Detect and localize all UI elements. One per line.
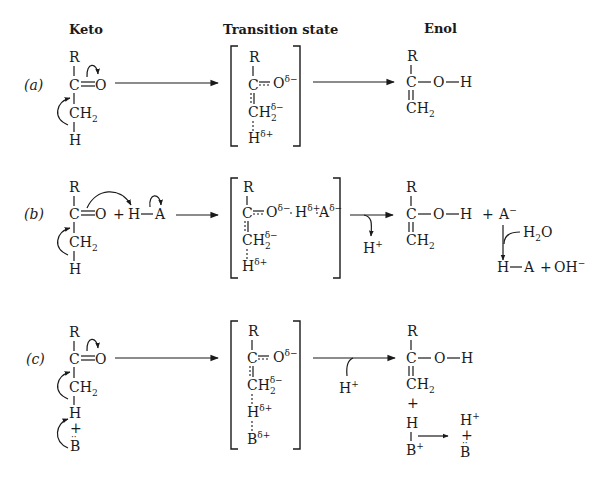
curved-arrow-icon	[87, 65, 98, 77]
atom-r: R	[407, 323, 418, 339]
atom-h-partial: Hδ+	[247, 403, 272, 420]
water-regeneration: H2O H A + OH−	[497, 224, 585, 275]
row-b: (b) R C O + H A CH2 H R C	[24, 178, 585, 278]
enol-structure-b: R C O H CH2 + A−	[406, 179, 517, 251]
group-ch2-partial: CH2δ−	[247, 375, 283, 396]
enol-structure-a: R C O H CH2	[406, 48, 472, 119]
curved-arrow-icon	[87, 339, 98, 351]
bracket-right	[293, 46, 300, 146]
keto-enol-diagram: Keto Transition state Enol (a) R C O CH2…	[0, 0, 609, 481]
atom-o: O	[95, 206, 106, 222]
atom-r: R	[243, 179, 254, 195]
atom-o-partial: Oδ−	[266, 203, 290, 220]
atom-o: O	[433, 206, 444, 222]
atom-c: C	[247, 350, 258, 366]
group-ch2: CH2	[406, 232, 435, 251]
atom-c: C	[248, 77, 259, 93]
row-label-b: (b)	[24, 206, 44, 222]
free-base: B	[460, 444, 470, 460]
curved-arrow-icon	[347, 358, 353, 376]
plus-sign: +	[540, 259, 552, 275]
protonated-base: B+	[406, 441, 424, 458]
row-a: (a) R C O CH2 H R C Oδ−	[24, 46, 472, 148]
plus-sign: +	[113, 206, 125, 222]
bracket-left	[231, 178, 238, 278]
hydroxide: OH−	[554, 258, 585, 275]
group-ch2: CH2	[406, 376, 435, 395]
atom-c: C	[406, 350, 417, 366]
atom-h: H	[69, 261, 81, 277]
base-partial: Bδ+	[247, 430, 270, 447]
atom-o: O	[95, 77, 106, 93]
atom-h-partial: Hδ+	[242, 257, 267, 274]
group-ch2-partial: CH2δ−	[248, 102, 284, 123]
atom-c: C	[242, 205, 253, 221]
transition-state-b: R C Oδ− Hδ+ Aδ− CH2δ− Hδ+	[242, 179, 342, 274]
row-label-c: (c)	[26, 351, 45, 367]
group-ch2: CH2	[406, 100, 435, 119]
header-keto: Keto	[69, 22, 103, 37]
added-proton: H+	[339, 379, 359, 396]
group-ch2: CH2	[69, 379, 98, 398]
atom-o-partial: Oδ−	[273, 74, 297, 91]
atom-a: A	[154, 206, 166, 222]
bracket-right	[293, 321, 300, 449]
curved-arrow-icon	[57, 419, 68, 448]
atom-r: R	[248, 323, 259, 339]
atom-h: H	[461, 350, 473, 366]
plus-sign: +	[482, 206, 494, 222]
bracket-left	[231, 46, 238, 146]
water: H2O	[523, 224, 552, 243]
group-ch2: CH2	[69, 105, 98, 124]
atom-r: R	[407, 48, 418, 64]
atom-r: R	[249, 49, 260, 65]
atom-h: H	[497, 259, 509, 275]
header-enol: Enol	[424, 21, 457, 36]
conjugate-base: A−	[498, 205, 517, 222]
atom-h-partial: Hδ+	[295, 203, 320, 220]
atom-c: C	[69, 351, 80, 367]
row-c: (c) R C O CH2 H + B ·· R C	[26, 321, 480, 460]
group-ch2: CH2	[69, 234, 98, 253]
transition-state-c: R C Oδ− CH2δ− Hδ+ Bδ+	[247, 323, 297, 447]
group-ch2-partial: CH2δ−	[242, 230, 278, 251]
atom-h: H	[69, 132, 81, 148]
bracket-left	[231, 321, 238, 449]
atom-r: R	[69, 324, 80, 340]
enol-structure-c: R C O H CH2 +	[406, 323, 473, 411]
atom-o-partial: Oδ−	[273, 348, 297, 365]
atom-o: O	[95, 351, 106, 367]
atom-a-partial: Aδ−	[318, 203, 342, 220]
atom-o: O	[433, 74, 444, 90]
released-proton: H+	[363, 239, 383, 256]
curved-arrow-icon	[504, 232, 520, 244]
header-transition-state: Transition state	[223, 22, 338, 37]
atom-h: H	[406, 415, 418, 431]
bracket-right	[333, 178, 340, 278]
atom-h-partial: Hδ+	[248, 129, 273, 146]
atom-r: R	[406, 179, 417, 195]
transition-state-a: R C Oδ− CH2δ− Hδ+	[248, 49, 297, 146]
atom-h: H	[460, 206, 472, 222]
released-proton: H+	[460, 411, 480, 428]
curved-arrow-icon	[364, 215, 371, 236]
lone-pair: ··	[71, 432, 77, 442]
atom-h: H	[69, 405, 81, 421]
atom-h: H	[460, 74, 472, 90]
keto-structure-b: R C O + H A CH2 H	[58, 179, 166, 277]
atom-r: R	[69, 49, 80, 65]
row-label-a: (a)	[24, 77, 43, 93]
keto-structure-c: R C O CH2 H + B ··	[57, 324, 106, 454]
protonated-base-c: H B+ H+ + ·· B	[406, 411, 480, 460]
keto-structure-a: R C O CH2 H	[58, 49, 107, 148]
atom-o: O	[434, 350, 445, 366]
atom-c: C	[406, 74, 417, 90]
atom-r: R	[69, 179, 80, 195]
atom-c: C	[406, 206, 417, 222]
atom-c: C	[69, 206, 80, 222]
atom-a: A	[523, 259, 535, 275]
plus-sign: +	[407, 395, 419, 411]
atom-c: C	[69, 77, 80, 93]
atom-h: H	[128, 206, 140, 222]
